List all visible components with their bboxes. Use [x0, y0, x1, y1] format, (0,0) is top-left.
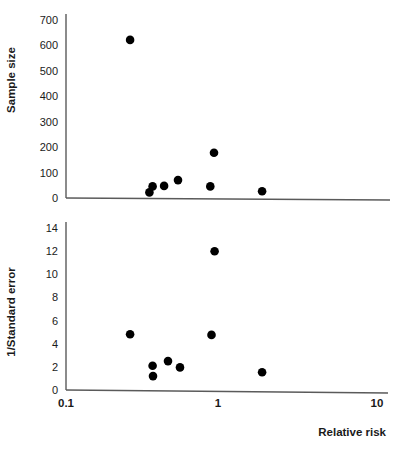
- bottom-panel-y-tick-0: 0: [52, 384, 58, 396]
- bottom-panel-y-tick-2: 2: [52, 361, 58, 373]
- data-point: [148, 182, 157, 191]
- top-panel-y-axis-title: Sample size: [5, 47, 17, 113]
- top-panel-y-tick-700: 700: [40, 14, 58, 26]
- data-point: [126, 330, 135, 339]
- top-panel-y-tick-400: 400: [40, 90, 58, 102]
- figure-canvas: Sample size 700 600 500 400 300 200 100 …: [0, 0, 396, 450]
- data-point: [164, 357, 173, 366]
- top-panel-y-tick-600: 600: [40, 39, 58, 51]
- data-point: [160, 182, 169, 191]
- top-panel-y-tick-200: 200: [40, 141, 58, 153]
- top-panel-y-tick-0: 0: [52, 192, 58, 204]
- data-point: [206, 182, 215, 191]
- bottom-panel-y-tick-6: 6: [52, 315, 58, 327]
- data-point: [258, 187, 267, 196]
- bottom-panel-y-tick-10: 10: [46, 268, 58, 280]
- data-point: [258, 368, 267, 377]
- bottom-panel-y-tick-12: 12: [46, 245, 58, 257]
- funnel-plot-figure: Sample size 700 600 500 400 300 200 100 …: [0, 0, 396, 450]
- top-panel-y-tick-100: 100: [40, 167, 58, 179]
- data-point: [149, 372, 158, 381]
- data-point: [176, 363, 185, 372]
- data-point: [210, 247, 219, 256]
- x-axis-tick-10: 10: [371, 397, 384, 409]
- x-axis-tick-1: 1: [215, 397, 222, 409]
- top-panel-y-tick-500: 500: [40, 65, 58, 77]
- x-axis-title: Relative risk: [318, 426, 386, 438]
- data-point: [126, 36, 135, 45]
- bottom-panel-y-tick-4: 4: [52, 338, 58, 350]
- bottom-panel-y-tick-8: 8: [52, 291, 58, 303]
- data-point: [148, 361, 157, 370]
- figure-background: [0, 0, 396, 450]
- top-panel-y-tick-300: 300: [40, 116, 58, 128]
- data-point: [210, 149, 219, 158]
- x-axis-tick-0-1: 0.1: [58, 397, 75, 409]
- bottom-panel-y-tick-14: 14: [46, 222, 58, 234]
- data-point: [174, 176, 183, 185]
- data-point: [207, 331, 216, 340]
- bottom-panel-y-axis-title: 1/Standard error: [5, 267, 17, 357]
